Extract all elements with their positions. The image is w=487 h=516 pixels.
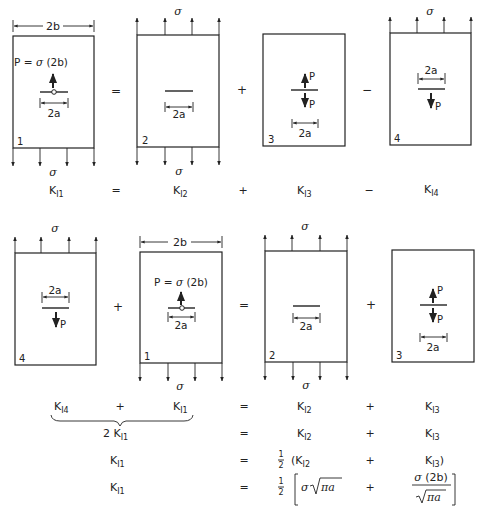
svg-text:KI2: KI2 [297, 427, 312, 442]
svg-text:2a: 2a [426, 341, 439, 353]
svg-text:2: 2 [142, 135, 148, 146]
width-label: 2b [46, 20, 60, 33]
svg-text:KI4: KI4 [54, 400, 69, 415]
panel-2-row1: σ 2a 2 σ [137, 5, 219, 178]
svg-text:σ: σ [175, 165, 183, 178]
svg-text:σ: σ [51, 222, 59, 235]
svg-text:KI3: KI3 [425, 427, 440, 442]
panel-number: 1 [17, 136, 23, 147]
svg-text:1: 1 [278, 450, 283, 459]
panel-3-row2: P P 2a 3 [392, 250, 474, 362]
svg-text:+: + [365, 400, 374, 413]
svg-text:σ: σ [301, 481, 309, 494]
svg-text:=: = [239, 427, 248, 440]
svg-text:+: + [365, 454, 374, 467]
minus-operator: − [362, 83, 372, 97]
svg-text:4: 4 [394, 133, 400, 144]
svg-text:P: P [309, 99, 315, 110]
svg-text:2: 2 [278, 488, 283, 497]
svg-text:2a: 2a [48, 284, 61, 296]
superposition-diagram: 2b P = σ (2b) 2a 1 σ = σ 2a 2 σ [0, 0, 487, 516]
svg-text:2: 2 [269, 350, 275, 361]
plus-operator: + [237, 83, 247, 97]
svg-text:+: + [238, 184, 247, 197]
svg-text:KI1: KI1 [173, 400, 188, 415]
equation-line-1: KI4 + KI1 = KI2 + KI3 [51, 400, 440, 426]
svg-text:KI3: KI3 [425, 400, 440, 415]
svg-text:2b: 2b [173, 236, 187, 249]
equation-line-3: KI1 = 1 2 (KI2 + KI3) [110, 450, 444, 470]
svg-text:(KI2: (KI2 [291, 454, 310, 469]
point-load-label: P = σ (2b) [14, 56, 68, 68]
panel-2-row2: σ 2a 2 σ [265, 220, 347, 392]
svg-text:2a: 2a [424, 64, 437, 76]
equation-line-2: 2 KI1 = KI2 + KI3 [103, 427, 440, 442]
svg-text:=: = [111, 184, 120, 197]
svg-text:KI1: KI1 [110, 481, 125, 496]
svg-text:KI3): KI3) [425, 454, 444, 469]
svg-text:KI4: KI4 [424, 183, 439, 198]
panel-1-row2: 2b P = σ (2b) 2a 1 σ [140, 236, 222, 393]
svg-text:P: P [309, 71, 315, 82]
svg-text:=: = [239, 400, 248, 413]
svg-text:P = σ (2b): P = σ (2b) [154, 276, 208, 288]
svg-text:KI1: KI1 [110, 454, 125, 469]
svg-text:−: − [364, 184, 373, 197]
svg-text:+: + [366, 298, 376, 312]
panel-1-row1: 2b P = σ (2b) 2a 1 σ [13, 20, 94, 179]
svg-text:πa: πa [320, 481, 335, 494]
svg-text:3: 3 [268, 134, 274, 145]
panel-4-row1: σ 2a P 4 [390, 5, 471, 145]
svg-text:P: P [437, 285, 443, 296]
svg-text:1: 1 [278, 477, 283, 486]
svg-text:4: 4 [19, 353, 25, 364]
svg-text:2a: 2a [298, 127, 311, 139]
svg-text:KI2: KI2 [173, 184, 188, 199]
svg-text:P: P [437, 314, 443, 325]
svg-text:σ: σ [176, 380, 184, 393]
svg-text:+: + [113, 300, 123, 314]
svg-text:P: P [60, 319, 66, 330]
svg-text:2a: 2a [174, 319, 187, 331]
svg-text:P: P [435, 101, 441, 112]
svg-text:2: 2 [278, 461, 283, 470]
svg-text:KI3: KI3 [297, 184, 312, 199]
stress-label: σ [49, 166, 57, 179]
svg-text:=: = [239, 454, 248, 467]
svg-text:σ: σ [301, 220, 309, 233]
equals-operator: = [111, 84, 121, 98]
svg-text:σ (2b): σ (2b) [414, 471, 448, 484]
svg-text:3: 3 [396, 350, 402, 361]
svg-text:σ: σ [174, 5, 182, 18]
panel-3-row1: P P 2a 3 [263, 34, 345, 146]
svg-text:2a: 2a [172, 108, 185, 120]
svg-text:+: + [365, 427, 374, 440]
svg-text:1: 1 [144, 351, 150, 362]
svg-text:KI1: KI1 [49, 184, 64, 199]
svg-text:2a: 2a [299, 320, 312, 332]
equation-line-4: KI1 = 1 2 σ πa + σ (2b) πa [110, 471, 455, 505]
svg-text:σ: σ [426, 5, 434, 18]
svg-text:2 KI1: 2 KI1 [103, 427, 128, 442]
svg-text:+: + [115, 400, 124, 413]
svg-text:=: = [239, 481, 248, 494]
svg-text:+: + [365, 481, 374, 494]
svg-text:KI2: KI2 [297, 400, 312, 415]
svg-text:=: = [239, 298, 249, 312]
crack-length-label: 2a [47, 107, 60, 119]
svg-text:πa: πa [426, 491, 441, 504]
row1-equation: KI1 = KI2 + KI3 − KI4 [49, 183, 439, 199]
svg-text:σ: σ [302, 379, 310, 392]
panel-4-row2: σ 2a P 4 [15, 222, 96, 365]
